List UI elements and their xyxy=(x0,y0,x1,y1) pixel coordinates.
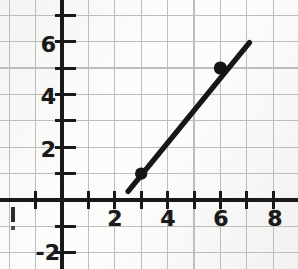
x-tick-label-2: 2 xyxy=(107,208,122,230)
margin-artifact-mark xyxy=(11,207,15,222)
plotted-line xyxy=(128,43,250,192)
y-tick-label-2: 2 xyxy=(41,139,56,161)
y-axis-ticks xyxy=(55,15,76,253)
y-tick-label-4: 4 xyxy=(41,86,56,108)
x-tick-label-4: 4 xyxy=(160,208,175,230)
data-point-3-1 xyxy=(135,167,147,179)
x-tick-label-8: 8 xyxy=(267,208,282,230)
margin-artifact-dot xyxy=(11,226,15,230)
graph-image: 6 4 2 -2 2 4 6 8 xyxy=(0,0,298,269)
data-point-6-5 xyxy=(214,61,227,74)
y-tick-label-6: 6 xyxy=(41,34,56,56)
y-tick-label-neg2: -2 xyxy=(36,242,60,264)
x-tick-label-6: 6 xyxy=(213,208,228,230)
